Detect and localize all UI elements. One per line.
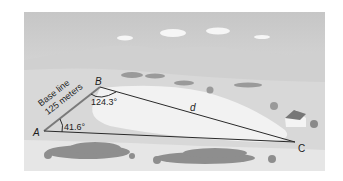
angle-a-value: 41.6°: [64, 122, 86, 132]
vertex-c-label: C: [298, 143, 305, 154]
vertex-b-label: B: [95, 76, 102, 87]
vertex-a-label: A: [32, 127, 40, 138]
side-d-label: d: [190, 102, 196, 113]
diagram-canvas: A B C d 124.3° 41.6° Base line 125 meter…: [0, 0, 343, 181]
angle-b-value: 124.3°: [91, 97, 118, 107]
